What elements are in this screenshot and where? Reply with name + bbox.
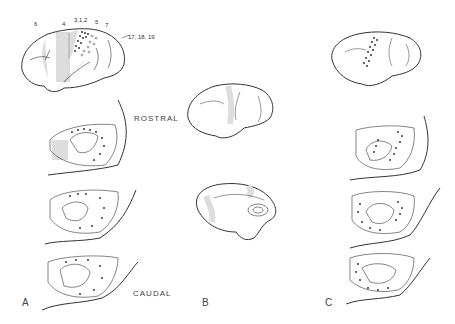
panel-a-sections bbox=[42, 100, 138, 310]
panel-c-sections bbox=[346, 116, 440, 304]
panel-label-a: A bbox=[22, 297, 29, 308]
area-label-7: 7 bbox=[105, 22, 108, 28]
area-label-6: 6 bbox=[34, 21, 37, 27]
panel-c-lateral-dots bbox=[363, 37, 378, 67]
caudal-label: CAUDAL bbox=[133, 289, 171, 298]
panel-label-c: C bbox=[325, 297, 332, 308]
panel-label-b: B bbox=[202, 297, 209, 308]
area-label-4: 4 bbox=[62, 21, 65, 27]
panel-b-medial-brain bbox=[196, 184, 275, 240]
figure-canvas bbox=[0, 0, 455, 324]
area-label-3-1-2: 3,1,2 bbox=[74, 17, 87, 23]
area-label-5: 5 bbox=[95, 19, 98, 25]
area-label-17-18-19: 17, 18, 19 bbox=[128, 34, 155, 40]
panel-b-lateral-brain bbox=[188, 84, 273, 138]
panel-a-lateral-brain bbox=[22, 29, 130, 92]
rostral-label: ROSTRAL bbox=[134, 114, 179, 123]
